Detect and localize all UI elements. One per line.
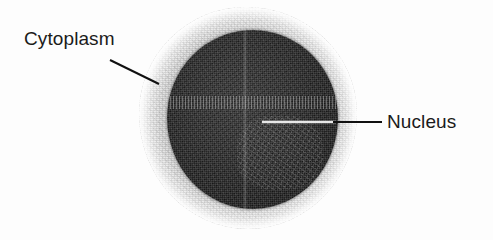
label-cytoplasm: Cytoplasm: [24, 29, 115, 48]
nucleus-region: [167, 30, 338, 209]
nucleus-horizontal-scan-band-artifact: [167, 96, 338, 109]
nucleus-mottle-patch: [237, 116, 323, 190]
label-nucleus: Nucleus: [387, 112, 456, 131]
nucleus-vertical-streak-artifact: [243, 30, 247, 209]
cell-micrograph-figure: Cytoplasm Nucleus: [0, 0, 493, 240]
